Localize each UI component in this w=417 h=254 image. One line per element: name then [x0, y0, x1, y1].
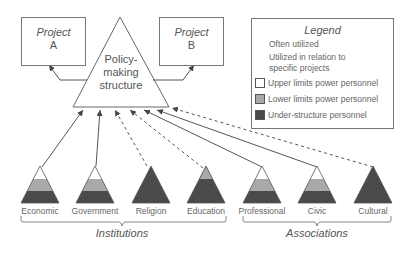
legend-label: Upper limits power personnel: [268, 78, 378, 88]
pyramid-religion: [132, 166, 170, 203]
legend-box: Legend Often utilized Utilized in relati…: [251, 18, 394, 129]
legend-label: specific projects: [269, 63, 346, 74]
under-structure-swatch-icon: [255, 110, 265, 120]
pyramid-government: [76, 166, 114, 203]
institutions-brace: [21, 216, 226, 226]
legend-label: Under-structure personnel: [268, 110, 367, 120]
project-b-label: Project: [160, 26, 223, 38]
project-b-box: Project B: [159, 17, 224, 66]
upper-limits-swatch-icon: [255, 78, 265, 88]
legend-item-upper-limits: Upper limits power personnel: [255, 78, 378, 88]
legend-item-under-structure: Under-structure personnel: [255, 110, 367, 120]
legend-item-lower-limits: Lower limits power personnel: [255, 94, 378, 104]
arrow-to-project-a: [49, 65, 87, 80]
project-a-label: Project: [22, 26, 85, 38]
pyramid-education: [187, 166, 225, 203]
link-economic: [42, 110, 83, 167]
project-a-box: Project A: [21, 17, 86, 66]
legend-item-specific-projects: Utilized in relation to specific project…: [269, 52, 346, 74]
group-associations: Associations: [257, 227, 377, 239]
pyramid-economic: [21, 166, 59, 203]
pyramid-professional: [243, 166, 281, 203]
pyramid-cultural: [354, 166, 392, 203]
project-a-letter: A: [22, 39, 85, 51]
arrow-to-project-b: [153, 65, 194, 80]
policy-making-line3: structure: [84, 79, 158, 92]
label-cultural: Cultural: [338, 206, 408, 216]
associations-brace: [243, 216, 391, 226]
legend-item-often-utilized: Often utilized: [269, 39, 319, 49]
link-religion: [115, 110, 147, 166]
legend-label: Often utilized: [269, 39, 319, 49]
policy-making-label: Policy- making structure: [84, 53, 158, 92]
link-education: [130, 110, 203, 168]
policy-making-line1: Policy-: [84, 53, 158, 66]
lower-limits-swatch-icon: [255, 94, 265, 104]
link-government: [96, 110, 100, 166]
group-institutions: Institutions: [62, 227, 182, 239]
link-professional: [144, 110, 262, 167]
legend-label: Utilized in relation to: [269, 52, 346, 63]
legend-label: Lower limits power personnel: [268, 94, 378, 104]
policy-making-line2: making: [84, 66, 158, 79]
pyramid-civic: [298, 166, 336, 203]
project-b-letter: B: [160, 39, 223, 51]
legend-title: Legend: [252, 24, 393, 36]
